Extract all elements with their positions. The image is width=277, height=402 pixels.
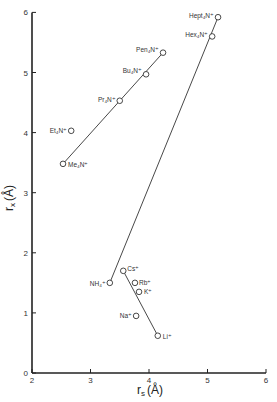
data-point-label: NH₄⁺ — [90, 280, 106, 287]
data-points: Hept₄N⁺Hex₄N⁺Pen₄N⁺Bu₄N⁺Pr₄N⁺Et₄N⁺Me₄N⁺N… — [50, 12, 221, 340]
data-point-marker — [68, 128, 74, 134]
x-tick-label: 6 — [264, 376, 269, 385]
data-point-label: Hex₄N⁺ — [185, 31, 208, 38]
data-point-marker — [136, 289, 142, 295]
x-tick-label: 3 — [88, 376, 93, 385]
tetraalkylammonium-fit — [63, 53, 163, 164]
data-point-label: Na⁺ — [120, 312, 132, 319]
y-tick-label: 0 — [24, 369, 29, 378]
y-tick-label: 5 — [24, 69, 29, 78]
data-point-label: Cs⁺ — [127, 265, 139, 272]
data-point-label: Me₄N⁺ — [68, 161, 88, 168]
data-point-label: Pr₄N⁺ — [98, 96, 116, 103]
data-point-label: Rb⁺ — [139, 279, 151, 286]
data-point-marker — [117, 98, 123, 104]
x-tick-label: 2 — [30, 376, 35, 385]
data-point-label: Pen₄N⁺ — [136, 46, 159, 53]
y-axis-title: rx(Å) — [1, 185, 17, 211]
data-point-label: Li⁺ — [163, 333, 172, 340]
y-tick-label: 2 — [24, 249, 29, 258]
data-point-marker — [107, 280, 113, 286]
y-tick-label: 1 — [24, 309, 29, 318]
data-point-marker — [160, 50, 166, 56]
data-point-label: Bu₄N⁺ — [123, 67, 142, 74]
NH4-to-Hept-line — [110, 17, 218, 283]
fit-lines — [63, 17, 218, 336]
data-point-marker — [60, 161, 66, 167]
data-point-marker — [155, 333, 161, 339]
y-tick-label: 4 — [24, 129, 29, 138]
data-point-marker — [133, 313, 139, 319]
data-point-marker — [132, 280, 138, 286]
data-point-marker — [215, 14, 221, 20]
y-tick-label: 6 — [24, 8, 29, 17]
data-point-marker — [120, 268, 126, 274]
y-tick-label: 3 — [24, 189, 29, 198]
x-axis-title: rs(Å) — [137, 382, 163, 398]
data-point-marker — [209, 34, 215, 40]
data-point-label: Et₄N⁺ — [50, 127, 68, 134]
x-tick-label: 5 — [205, 376, 210, 385]
data-point-label: Hept₄N⁺ — [189, 12, 214, 20]
data-point-label: K⁺ — [144, 288, 152, 295]
scatter-chart: 234560123456rs(Å)rx(Å) Hept₄N⁺Hex₄N⁺Pen₄… — [0, 0, 277, 402]
data-point-marker — [143, 72, 149, 78]
